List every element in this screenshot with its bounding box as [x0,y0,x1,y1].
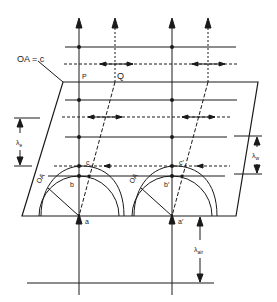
label-b: b [70,181,74,188]
diagram-canvas: OA = c P Q c c′ b b′ a a′ OA OA λe λw λa… [0,0,277,302]
label-a-prime: a′ [178,218,184,225]
arrowhead-up-icon [205,18,211,28]
extraordinary-ray-right [172,82,208,216]
label-b-prime: b′ [164,181,170,188]
label-oa-right: OA [128,172,139,185]
label-c-prime: c′ [179,159,185,166]
birefringence-diagram: OA = c P Q c c′ b b′ a a′ OA OA λe λw λa… [0,0,277,302]
lambda-air-label: λair [194,246,203,255]
lambda-e-label: λe [16,139,23,148]
extraordinary-wavelet-left [41,166,124,216]
optic-axis-label: OA = c [17,54,45,64]
label-c: c [86,159,90,166]
arrowhead-up-icon [76,18,82,28]
label-a: a [85,218,89,225]
label-p: P [82,73,87,80]
label-oa-left: OA [35,172,46,185]
optic-axis-line-left [48,188,79,216]
extraordinary-wavelet-right [134,166,217,216]
optic-axis-line-right [141,188,172,216]
arrowhead-up-icon [169,18,175,28]
extraordinary-ray-left [79,82,115,216]
label-q: Q [117,71,124,81]
lambda-o-label: λw [252,152,260,161]
arrowhead-up-icon [112,18,118,28]
optic-axis-pointer [38,61,63,82]
